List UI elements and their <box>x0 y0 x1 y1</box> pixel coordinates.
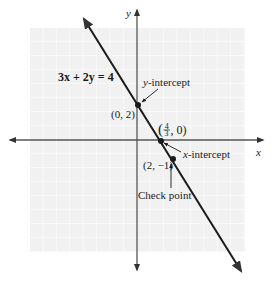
y-intercept-coord-label: (0, 2) <box>111 108 135 121</box>
y-axis-label: y <box>125 7 131 19</box>
check-point-name-label: Check point <box>138 189 191 201</box>
equation-label: 3x + 2y = 4 <box>58 70 114 84</box>
check-point-coord-label: (2, −1) <box>143 159 173 172</box>
x-axis-label: x <box>255 146 261 158</box>
x-intercept-name-label: x-intercept <box>182 148 230 160</box>
y-intercept-point <box>135 102 141 108</box>
y-intercept-name-label: y-intercept <box>142 76 190 88</box>
x-intercept-point <box>158 138 164 144</box>
x-intercept-coord-den: 3 <box>165 129 169 138</box>
graph-figure: x y 3x + 2y = 4 (0, 2) y-intercept ( 4 ,… <box>0 0 272 282</box>
